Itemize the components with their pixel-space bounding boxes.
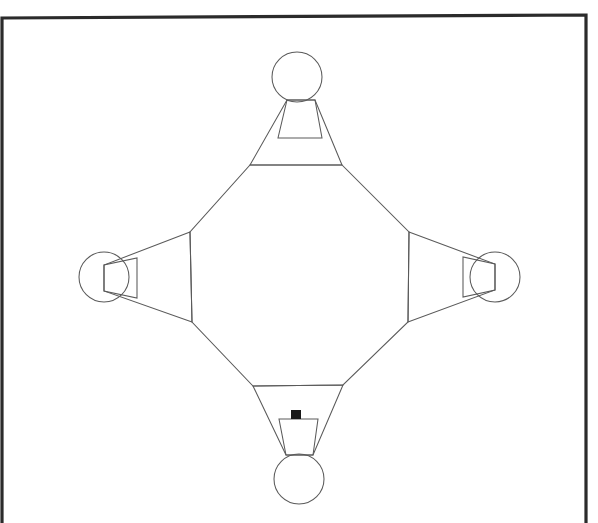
tongue-north: [278, 100, 322, 138]
tongue-west: [104, 258, 137, 298]
petal-east: [408, 232, 495, 322]
diagram-svg: [0, 0, 598, 523]
node-circle-north[interactable]: [272, 52, 322, 102]
diagram-canvas: [0, 0, 598, 523]
page-border: [2, 15, 586, 523]
black-square-marker: [291, 410, 301, 419]
tongue-south: [279, 419, 318, 455]
node-circle-south[interactable]: [274, 454, 324, 504]
petal-north: [250, 100, 342, 165]
petal-south: [253, 385, 343, 455]
petal-west: [104, 232, 192, 322]
tongue-east: [463, 257, 495, 297]
central-octagon[interactable]: [190, 165, 409, 386]
